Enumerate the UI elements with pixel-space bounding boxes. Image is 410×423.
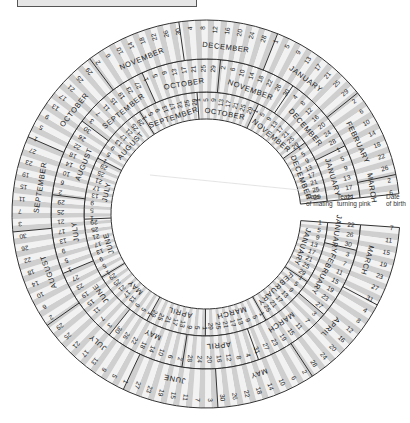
day-number: 12	[211, 26, 218, 34]
day-number: 30	[174, 27, 182, 36]
day-number: 21	[57, 219, 65, 226]
day-number: 1	[90, 215, 94, 222]
day-number: 17	[57, 228, 65, 236]
day-number: 29	[57, 199, 65, 207]
guide-line	[150, 175, 300, 190]
day-number: 1	[202, 326, 209, 330]
day-number: 12	[225, 353, 233, 362]
day-number: 15	[19, 183, 28, 191]
day-number: 21	[189, 65, 197, 73]
day-number: 16	[216, 355, 224, 363]
day-number: 11	[18, 196, 26, 204]
day-number: 20	[206, 356, 213, 364]
day-number: 17	[180, 66, 188, 75]
day-number: 26	[231, 392, 239, 401]
day-number: 24	[196, 355, 203, 363]
day-number: 25	[90, 226, 98, 234]
day-number: 5	[90, 207, 94, 214]
day-number: 3	[207, 398, 214, 402]
day-number: 25	[57, 209, 65, 216]
day-number: 30	[19, 233, 27, 241]
day-number: 26	[346, 230, 355, 238]
day-number: 29	[209, 65, 216, 73]
day-number: 11	[182, 394, 190, 402]
column-header-1: Teatsturning pink	[337, 193, 371, 207]
day-number: 25	[199, 65, 206, 73]
day-number: 7	[194, 398, 201, 402]
day-number: 28	[186, 355, 194, 363]
day-number: 5	[202, 98, 209, 102]
day-number: 8	[199, 26, 206, 30]
day-number: 16	[223, 26, 231, 34]
day-number: 25	[215, 322, 223, 330]
day-number: 7	[18, 208, 22, 215]
day-number: 22	[347, 221, 355, 229]
column-header-0: Dateof mating	[306, 193, 333, 207]
column-header-2: Dateof birth	[386, 193, 406, 207]
ring-date-of-mating: JANUARYFEBRUARYMARCHAPRILMAYJUNEJULYAUGU…	[84, 92, 328, 336]
gestation-wheel: JANUARYFEBRUARYMARCHAPRILMAYJUNEJULYAUGU…	[0, 0, 410, 423]
day-number: 30	[219, 394, 227, 402]
